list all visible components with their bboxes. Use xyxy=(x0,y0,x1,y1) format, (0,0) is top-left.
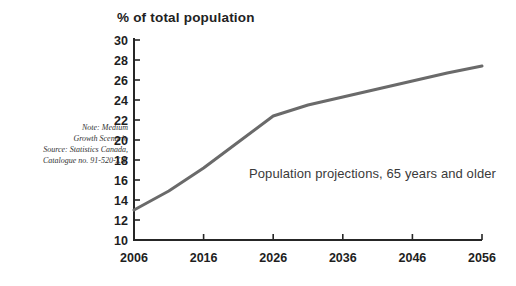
y-axis-tick-label: 18 xyxy=(114,154,128,168)
population-projection-line xyxy=(134,66,482,210)
y-axis-tick-label: 28 xyxy=(114,54,128,68)
y-axis-tick-label: 16 xyxy=(114,174,128,188)
y-axis-tick-label: 20 xyxy=(114,134,128,148)
y-axis-tick-label: 22 xyxy=(114,114,128,128)
y-axis-tick-label: 26 xyxy=(114,74,128,88)
y-axis-tick-label: 12 xyxy=(114,214,128,228)
y-axis-tick-label: 30 xyxy=(114,34,128,48)
y-axis-tick-label: 10 xyxy=(114,234,128,248)
population-projection-figure: % of total population Note: Medium Growt… xyxy=(0,0,516,286)
y-axis-tick-label: 14 xyxy=(114,194,128,208)
line-chart: 1012141618202224262830200620162026203620… xyxy=(0,0,516,286)
y-axis-tick-label: 24 xyxy=(114,94,128,108)
x-axis-tick-label: 2056 xyxy=(468,251,496,265)
axes xyxy=(134,38,482,240)
x-axis-tick-label: 2026 xyxy=(259,251,287,265)
x-axis-tick-label: 2016 xyxy=(190,251,218,265)
x-axis-tick-label: 2046 xyxy=(398,251,426,265)
x-axis-tick-label: 2006 xyxy=(120,251,148,265)
x-axis-tick-label: 2036 xyxy=(329,251,357,265)
